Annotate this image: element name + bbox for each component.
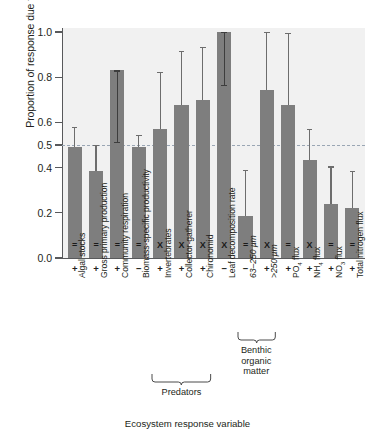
category-label: Gross primary production <box>100 183 109 278</box>
error-bar <box>266 32 267 90</box>
category-label: Algal stocks <box>78 233 87 278</box>
category-label: Chironomid <box>206 235 215 278</box>
error-bar <box>117 70 118 141</box>
error-bar-cap <box>72 127 78 128</box>
error-bar-cap <box>93 145 99 146</box>
y-tick-label: 0.8 <box>24 72 52 82</box>
y-tick-mark <box>55 257 62 258</box>
y-tick-label: 0.2 <box>24 208 52 218</box>
error-bar-cap <box>114 70 120 71</box>
category-label: PO4 flux <box>292 247 304 278</box>
category-label: Total nitrogen flux <box>356 212 365 278</box>
error-bar <box>352 171 353 208</box>
group-label: Benthic organic matter <box>223 345 290 377</box>
error-bar <box>224 32 225 85</box>
error-bar-cap <box>328 166 334 167</box>
error-bar-cap <box>264 32 270 33</box>
error-bar <box>138 135 139 147</box>
error-bar <box>74 127 75 147</box>
error-bar-cap <box>243 170 249 171</box>
y-tick-mark <box>55 167 62 168</box>
category-label: Community respiration <box>121 193 130 278</box>
error-bar <box>181 51 182 105</box>
y-tick-label: 0.6 <box>24 117 52 127</box>
y-tick-mark <box>55 122 62 123</box>
error-bar <box>202 47 203 100</box>
y-tick-mark <box>55 77 62 78</box>
error-bar-cap <box>221 32 227 33</box>
y-tick-mark <box>55 212 62 213</box>
category-label: Biomass-specific productivity <box>142 169 151 278</box>
y-tick-label: 0.4 <box>24 163 52 173</box>
error-bar-cap <box>307 129 313 130</box>
group-bracket <box>151 374 212 385</box>
category-label: >250 µm <box>270 244 279 278</box>
reference-line-0-5 <box>62 145 365 146</box>
category-label: 63–250 µm <box>249 235 258 278</box>
category-label: Collector-gatherer <box>185 210 194 278</box>
error-bar-cap <box>221 85 227 86</box>
error-bar-cap <box>285 33 291 34</box>
group-bracket <box>237 332 276 343</box>
bar <box>260 90 274 258</box>
y-tick-label: 0.5 <box>24 140 52 150</box>
error-bar <box>160 72 161 130</box>
y-tick-mark <box>55 31 62 32</box>
error-bar <box>309 129 310 160</box>
y-tick-mark <box>55 144 62 145</box>
error-bar-cap <box>157 72 163 73</box>
error-bar-cap <box>350 171 356 172</box>
x-axis-title: Ecosystem response variable <box>0 418 375 429</box>
group-label: Predators <box>137 387 226 398</box>
error-bar-cap <box>179 51 185 52</box>
error-bar-cap <box>200 47 206 48</box>
category-label: Invertebrates <box>164 228 173 278</box>
category-label: NO3 flux <box>335 246 347 278</box>
error-bar <box>245 170 246 216</box>
category-label: NH4 flux <box>313 247 325 278</box>
error-bar-cap <box>114 142 120 143</box>
y-tick-label: 0.0 <box>24 253 52 263</box>
error-bar <box>288 33 289 105</box>
error-bar <box>95 145 96 171</box>
error-bar <box>330 166 331 203</box>
error-bar-cap <box>136 135 142 136</box>
y-tick-label: 1.0 <box>24 27 52 37</box>
bar-chart-figure: Proportion of response due to evolution … <box>0 0 375 439</box>
category-label: Leaf decomposition rate <box>228 187 237 278</box>
bar <box>281 105 295 258</box>
